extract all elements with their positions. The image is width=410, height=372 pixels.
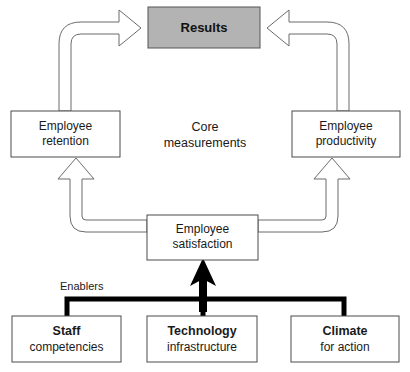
service-profit-chain-diagram: Results Employee retention Employee prod… [0, 0, 410, 372]
box-staff-competencies-line1: Staff [53, 324, 82, 338]
arrow-satisfaction-to-retention [58, 158, 147, 232]
box-employee-satisfaction-line1: Employee [176, 222, 230, 236]
box-technology-infrastructure-line1: Technology [167, 324, 236, 338]
box-employee-productivity[interactable]: Employee productivity [292, 111, 400, 157]
arrow-enablers-to-satisfaction [190, 258, 216, 312]
box-results[interactable]: Results [148, 7, 260, 48]
box-results-label: Results [181, 20, 228, 35]
arrow-productivity-to-results [267, 10, 349, 111]
arrow-satisfaction-to-productivity [258, 158, 350, 232]
core-measurements-label: Core measurements [164, 120, 247, 150]
box-climate-for-action-line2: for action [320, 340, 369, 354]
box-employee-satisfaction-line2: satisfaction [172, 237, 232, 251]
box-employee-satisfaction[interactable]: Employee satisfaction [147, 215, 258, 260]
box-technology-infrastructure-line2: infrastructure [167, 340, 237, 354]
box-staff-competencies-line2: competencies [29, 340, 103, 354]
core-measurements-line2: measurements [164, 136, 247, 150]
box-climate-for-action-line1: Climate [322, 324, 367, 338]
box-employee-retention-line1: Employee [39, 119, 93, 133]
box-technology-infrastructure[interactable]: Technology infrastructure [147, 316, 257, 362]
diagram-canvas: Results Employee retention Employee prod… [0, 0, 410, 372]
box-staff-competencies[interactable]: Staff competencies [12, 316, 121, 362]
box-employee-retention-line2: retention [42, 134, 89, 148]
enablers-label: Enablers [60, 280, 104, 292]
box-employee-retention[interactable]: Employee retention [11, 111, 120, 157]
core-measurements-line1: Core [191, 120, 218, 134]
box-employee-productivity-line1: Employee [319, 119, 373, 133]
box-employee-productivity-line2: productivity [316, 134, 377, 148]
box-climate-for-action[interactable]: Climate for action [291, 316, 399, 362]
arrow-retention-to-results [59, 10, 141, 111]
